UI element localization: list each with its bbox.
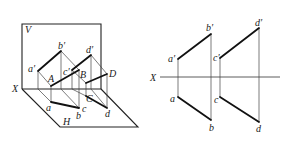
segment-ab-ortho — [178, 97, 211, 120]
segment-ab — [51, 102, 79, 108]
label-b-prime: b′ — [58, 40, 66, 51]
label-d-prime-ortho: d′ — [255, 17, 263, 28]
pictorial-view: V H X a′ b′ c′ d′ A B C D a b c d — [11, 24, 138, 127]
projection-diagram: V H X a′ b′ c′ d′ A B C D a b c d X a′ b… — [0, 0, 286, 145]
label-d: d — [105, 108, 111, 119]
h-projector-a — [38, 89, 51, 102]
label-b-prime-ortho: b′ — [206, 22, 214, 33]
projector-d-prime-D — [91, 55, 107, 74]
label-a-prime: a′ — [28, 63, 36, 74]
label-c-ortho: c — [214, 94, 219, 105]
label-b-ortho: b — [209, 122, 214, 133]
label-a: a — [46, 102, 51, 113]
segment-c-prime-d-prime-ortho — [220, 28, 259, 58]
label-x-axis-pictorial: X — [11, 83, 19, 94]
segment-cd-ortho — [220, 97, 259, 122]
h-plane — [22, 89, 138, 127]
label-h-plane: H — [62, 116, 71, 127]
label-B: B — [80, 69, 86, 80]
label-d-prime: d′ — [86, 44, 94, 55]
label-v-plane: V — [25, 24, 33, 35]
segment-a-prime-b-prime — [38, 51, 61, 71]
h-projector-d — [91, 89, 107, 108]
label-A: A — [47, 73, 55, 84]
label-d-ortho: d — [256, 123, 262, 134]
segment-c-prime-d-prime — [72, 55, 91, 70]
label-C: C — [86, 93, 93, 104]
label-D: D — [108, 68, 117, 79]
segment-a-prime-b-prime-ortho — [178, 34, 211, 59]
label-b: b — [76, 110, 81, 121]
label-a-ortho: a — [170, 93, 175, 104]
label-a-prime-ortho: a′ — [168, 53, 176, 64]
label-x-axis-orthographic: X — [149, 72, 157, 83]
orthographic-view: X a′ b′ c′ d′ a b c d — [149, 17, 280, 134]
label-c: c — [82, 103, 87, 114]
label-c-prime: c′ — [63, 66, 70, 77]
label-c-prime-ortho: c′ — [213, 52, 220, 63]
segment-CD — [86, 74, 107, 83]
